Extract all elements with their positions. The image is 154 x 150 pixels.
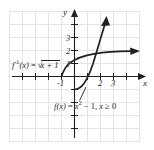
forward-argument: (x) xyxy=(56,101,65,111)
radicand: x + 1 xyxy=(41,60,60,70)
y-axis-label: y xyxy=(63,8,67,17)
x-tick-label-3: 3 xyxy=(111,79,115,88)
forward-function-label: f(x) = x2 − 1, x ≥ 0 xyxy=(54,100,116,110)
y-tick-label-3: 3 xyxy=(66,34,70,43)
inverse-argument: (x) xyxy=(19,60,28,70)
forward-rest: − 1, xyxy=(82,101,100,111)
parabola-arrow xyxy=(101,16,110,26)
sqrt-arrow xyxy=(130,48,140,56)
axis-lines xyxy=(12,14,141,138)
x-tick-label--1: -1 xyxy=(57,79,64,88)
inverse-equals: = xyxy=(29,60,38,70)
y-tick-label-1: 1 xyxy=(66,60,70,69)
x-axis-label: x xyxy=(143,79,147,88)
coordinate-plane xyxy=(0,0,154,150)
inverse-function-label: f-1(x) = √x + 1 xyxy=(12,59,60,69)
y-axis-arrow xyxy=(71,9,78,17)
y-tick-label-2: 2 xyxy=(66,47,70,56)
forward-equals: = xyxy=(66,101,75,111)
x-tick-label-2: 2 xyxy=(98,79,102,88)
graph-figure: y x -1 2 3 1 2 3 f-1(x) = √x + 1 f(x) = … xyxy=(0,0,154,150)
forward-domain-relation: ≥ 0 xyxy=(103,101,116,111)
